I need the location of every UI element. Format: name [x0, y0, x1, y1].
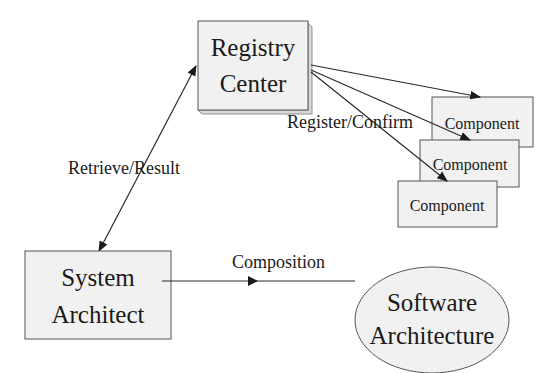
software-architecture-label-line1: Software: [387, 289, 477, 316]
registry-center-label-line1: Registry: [211, 34, 296, 61]
component-label-2: Component: [433, 156, 508, 174]
registry-center-label-line2: Center: [220, 70, 287, 97]
component-label-1: Component: [445, 115, 520, 133]
composition-label: Composition: [232, 252, 325, 272]
retrieve-result-label: Retrieve/Result: [68, 158, 180, 178]
system-architect-label-line2: Architect: [51, 301, 144, 328]
software-architecture-ellipse: [355, 267, 509, 373]
software-architecture-label-line2: Architecture: [370, 322, 495, 349]
register-confirm-label: Register/Confirm: [287, 112, 413, 132]
system-architect-label-line1: System: [61, 264, 135, 291]
component-node-2[interactable]: Component: [420, 140, 519, 187]
composition-arrowhead-icon: [248, 276, 258, 286]
component-label-3: Component: [410, 197, 485, 215]
diagram-canvas: Registry Center Component Component Comp…: [0, 0, 554, 373]
software-architecture-node[interactable]: Software Architecture: [355, 267, 509, 373]
system-architect-node[interactable]: System Architect: [25, 251, 171, 339]
registry-center-node[interactable]: Registry Center: [198, 21, 312, 114]
component-node-3[interactable]: Component: [398, 181, 497, 227]
